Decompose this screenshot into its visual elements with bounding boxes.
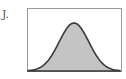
bell-curve-panel (0, 0, 126, 79)
